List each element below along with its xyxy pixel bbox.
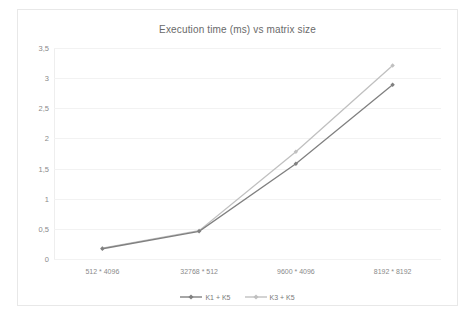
legend-entry[interactable]: K1 + K5 xyxy=(180,293,230,301)
y-axis-tick-label: 0 xyxy=(45,255,49,264)
chart-title: Execution time (ms) vs matrix size xyxy=(18,24,457,35)
legend-marker-icon xyxy=(180,293,202,301)
legend-label: K3 + K5 xyxy=(270,294,295,301)
series-line xyxy=(102,65,392,248)
y-axis-tick-label: 1 xyxy=(45,194,49,203)
y-axis-tick-label: 2,5 xyxy=(39,104,49,113)
series-lines xyxy=(54,48,441,259)
legend-marker-icon xyxy=(245,293,267,301)
y-axis-tick-label: 2 xyxy=(45,134,49,143)
x-axis-tick-label: 32768 * 512 xyxy=(180,268,218,275)
chart-container: Execution time (ms) vs matrix size 00,51… xyxy=(17,9,458,306)
y-axis-tick-label: 0,5 xyxy=(39,224,49,233)
gridline xyxy=(54,259,441,260)
chart-legend: K1 + K5K3 + K5 xyxy=(18,293,457,301)
y-axis-tick-label: 3,5 xyxy=(39,44,49,53)
x-axis-tick-label: 512 * 4096 xyxy=(85,268,119,275)
legend-entry[interactable]: K3 + K5 xyxy=(245,293,295,301)
plot-area: 00,511,522,533,5 512 * 409632768 * 51296… xyxy=(54,48,441,259)
y-axis-tick-label: 3 xyxy=(45,74,49,83)
x-axis-tick-label: 8192 * 8192 xyxy=(374,268,412,275)
x-axis-tick-label: 9600 * 4096 xyxy=(277,268,315,275)
series-line xyxy=(102,85,392,249)
y-axis-tick-label: 1,5 xyxy=(39,164,49,173)
legend-label: K1 + K5 xyxy=(205,294,230,301)
